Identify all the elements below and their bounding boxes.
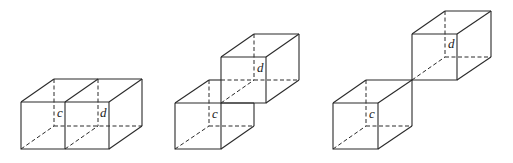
- upper-top-left-edge: [412, 11, 445, 34]
- upper-top-left-edge: [221, 34, 254, 57]
- lower-hidden-bottom-left: [175, 126, 209, 149]
- lower-bottom-right-edge: [378, 126, 412, 149]
- lower-top-left-edge: [175, 80, 209, 103]
- upper-hidden-bottom-left: [412, 57, 445, 80]
- top-right-edge: [109, 79, 142, 102]
- bottom-right-edge: [109, 126, 142, 149]
- lower-top-left-edge: [333, 80, 366, 103]
- lower-hidden-bottom-left: [333, 126, 366, 149]
- upper-top-right-edge: [266, 34, 299, 57]
- upper-hidden-bottom-left: [221, 80, 254, 103]
- top-middle-edge: [65, 79, 98, 102]
- top-left-edge: [21, 79, 54, 102]
- label-c: c: [57, 105, 63, 120]
- upper-bottom-right-edge: [266, 80, 299, 103]
- label-d: d: [100, 105, 107, 120]
- hidden-bottom-left: [21, 126, 54, 149]
- label-d: d: [257, 60, 264, 75]
- label-c: c: [369, 106, 375, 121]
- cube-diagrams: c d c d: [0, 0, 513, 163]
- lower-top-right-edge: [378, 80, 412, 103]
- upper-bottom-right-edge: [457, 57, 491, 80]
- upper-top-right-edge: [457, 11, 491, 34]
- figure-edge-stacked: c d: [175, 34, 299, 149]
- figure-vertex-touching: c d: [333, 11, 491, 149]
- lower-bottom-right-edge: [221, 126, 254, 149]
- label-c: c: [212, 106, 218, 121]
- label-d: d: [448, 36, 455, 51]
- hidden-bottom-middle: [65, 126, 98, 149]
- figure-side-by-side: c d: [21, 79, 142, 149]
